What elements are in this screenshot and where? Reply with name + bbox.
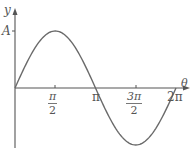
tick-label-two-pi: 2π	[167, 91, 183, 103]
tick-label-three-half-pi: 3π 2	[126, 91, 142, 116]
y-axis-arrow-icon	[13, 8, 18, 15]
sine-graph	[0, 0, 192, 153]
tick-label-pi: π	[92, 91, 100, 103]
amplitude-label: A	[2, 25, 11, 37]
y-axis-label: y	[4, 4, 11, 16]
tick-label-half-pi: π 2	[48, 91, 57, 116]
x-axis-label: θ	[181, 78, 188, 89]
